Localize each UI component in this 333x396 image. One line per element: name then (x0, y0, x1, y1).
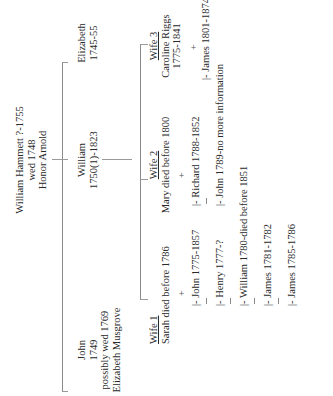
wife-label: Wife 3 (148, 0, 160, 96)
marriage-date: wed 1748 (26, 100, 38, 220)
wife-detail: Caroline Riggs (160, 0, 172, 96)
wife1-child-3: |- William 1780-died before 1851 (238, 166, 250, 306)
child-years: 1745-55 (88, 8, 100, 78)
wife1-stub (278, 298, 279, 304)
wife1-child-5: |- James 1785-1786 (286, 224, 298, 306)
plus-sign: + (188, 44, 199, 50)
mother-name: Honor Arnold (37, 100, 49, 220)
wife-label: Wife 2 (148, 110, 160, 220)
family-tree-page: William Hammett ?-1755 wed 1748 Honor Ar… (0, 0, 333, 396)
child-john: John 1749 possibly wed 1769 Elizabeth Mu… (76, 300, 122, 396)
child-name: John (76, 300, 88, 396)
wife-detail: Sarah died before 1786 (160, 234, 172, 344)
child-spouse: Elizabeth Musgrove (111, 300, 123, 396)
wife1-child-2: |- Henry 1777-? (214, 240, 226, 306)
generation-line-2 (140, 44, 141, 300)
child-years: 1749 (88, 300, 100, 396)
wife-2: Wife 2 Mary died before 1800 (148, 110, 171, 220)
wife1-stub (254, 298, 255, 304)
wife2-child-1: |- Richard 1788-1852 (190, 116, 202, 206)
child-name: Elizabeth (76, 8, 88, 78)
wife-years: 1775-1841 (171, 0, 183, 96)
plus-sign: + (176, 290, 187, 296)
wife1-child-1: |- John 1775-1857 (190, 230, 202, 306)
wife-1: Wife 1 Sarah died before 1786 (148, 234, 171, 344)
generation-line-1 (62, 62, 63, 392)
parents-connector (52, 159, 62, 160)
wife3-child-1: |- James 1801-1874 (200, 0, 212, 80)
wife-detail: Mary died before 1800 (160, 110, 172, 220)
wife1-stub (230, 298, 231, 304)
child-years: 1750(1)-1823 (88, 120, 100, 200)
father-name: William Hammett ?-1755 (14, 100, 26, 220)
tick-wife1 (140, 299, 148, 300)
wife-label: Wife 1 (148, 234, 160, 344)
child-elizabeth: Elizabeth 1745-55 (76, 8, 99, 78)
child-note: possibly wed 1769 (99, 300, 111, 396)
child-name: William (76, 120, 88, 200)
wife2-stub (206, 198, 207, 204)
tick-elizabeth (62, 62, 68, 63)
parents-block: William Hammett ?-1755 wed 1748 Honor Ar… (14, 100, 49, 220)
tick-john (62, 391, 68, 392)
tick-wife2 (140, 179, 148, 180)
wife1-stub (206, 298, 207, 304)
william-connector (102, 159, 132, 160)
tick-william (62, 159, 68, 160)
wife2-child-2: |- John 1789-no more information (214, 64, 226, 206)
tick-wife3 (140, 44, 148, 45)
wife-3: Wife 3 Caroline Riggs 1775-1841 (148, 0, 183, 96)
plus-sign: + (176, 172, 187, 178)
wife1-child-4: |- James 1781-1782 (262, 224, 274, 306)
child-william: William 1750(1)-1823 (76, 120, 99, 200)
